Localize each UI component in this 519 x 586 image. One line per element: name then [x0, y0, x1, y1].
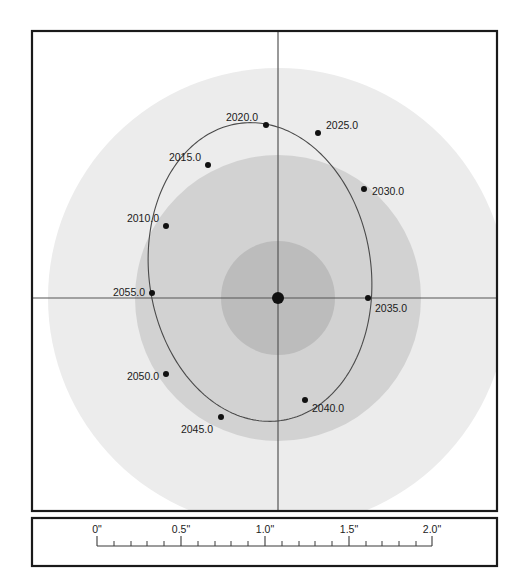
epoch-label: 2040.0	[312, 402, 344, 414]
epoch-marker	[149, 290, 155, 296]
scale-tick-label: 0.5"	[172, 523, 191, 535]
epoch-marker	[361, 186, 367, 192]
epoch-label: 2010.0	[127, 212, 159, 224]
epoch-marker	[163, 223, 169, 229]
scale-tick-label: 1.0"	[256, 523, 275, 535]
binary-star-orbit-figure: 2010.02015.02020.02025.02030.02035.02040…	[0, 0, 519, 586]
epoch-marker	[315, 130, 321, 136]
epoch-label: 2055.0	[113, 286, 145, 298]
scale-tick-label: 0"	[92, 523, 102, 535]
epoch-label: 2030.0	[372, 185, 404, 197]
scale-tick-label: 2.0"	[423, 523, 442, 535]
epoch-marker	[365, 295, 371, 301]
orbit-diagram-canvas: 2010.02015.02020.02025.02030.02035.02040…	[0, 0, 519, 586]
epoch-label: 2050.0	[127, 370, 159, 382]
epoch-label: 2015.0	[169, 151, 201, 163]
primary-star-marker	[272, 292, 284, 304]
epoch-label: 2020.0	[226, 111, 258, 123]
scale-tick-label: 1.5"	[340, 523, 359, 535]
epoch-marker	[205, 162, 211, 168]
epoch-marker	[263, 122, 269, 128]
epoch-label: 2045.0	[181, 423, 213, 435]
epoch-label: 2025.0	[326, 119, 358, 131]
epoch-marker	[302, 397, 308, 403]
epoch-marker	[218, 414, 224, 420]
epoch-marker	[163, 371, 169, 377]
epoch-label: 2035.0	[375, 302, 407, 314]
